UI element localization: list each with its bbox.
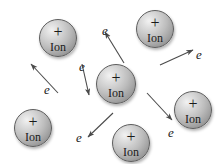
ion-charge-symbol: + [150,15,159,31]
electron-upper-mid-label: e [79,60,85,73]
ion-center: +Ion [96,64,136,104]
conduction-diagram: +Ion+Ion+Ion+Ion+Ion+Ion eeeeee [0,0,222,164]
ion-charge-symbol: + [53,24,62,40]
ion-charge-symbol: + [28,114,37,130]
ion-top-left: +Ion [39,19,77,57]
ion-charge-symbol: + [126,129,135,145]
electron-right-up-label: e [196,48,202,61]
electron-lower-right-arrow [147,93,172,120]
ion-label: Ion [123,146,139,158]
ion-bottom-center: +Ion [112,124,150,162]
ion-right: +Ion [174,91,212,129]
ion-label: Ion [50,41,66,53]
electron-lower-right-label: e [168,126,174,139]
electron-lower-left-label: e [76,131,82,144]
ion-top-right: +Ion [136,10,174,48]
ion-charge-symbol: + [188,96,197,112]
ion-label: Ion [108,87,124,99]
ion-label: Ion [147,32,163,44]
electron-lower-left-arrow [88,113,113,137]
ion-label: Ion [25,131,41,143]
electron-center-up-label: e [102,24,108,37]
ion-charge-symbol: + [111,70,120,86]
ion-bottom-left: +Ion [14,109,52,147]
electron-upper-left-label: e [44,83,50,96]
ion-label: Ion [185,113,201,125]
electron-right-up-arrow [160,50,193,65]
